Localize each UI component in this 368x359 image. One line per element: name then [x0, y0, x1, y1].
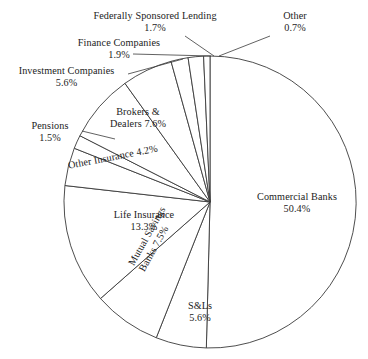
- slice-label-commercial-banks: Commercial Banks 50.4%: [243, 191, 351, 215]
- slice-label-name: Finance Companies: [78, 37, 160, 48]
- slice-label-name: Federally Sponsored Lending: [93, 10, 216, 21]
- slice-label-percent: 5.6%: [176, 312, 224, 324]
- slice-label-percent: 1.7%: [87, 22, 223, 34]
- slice-label-name: Pensions: [31, 120, 68, 131]
- slice-label-percent: 1.5%: [16, 132, 84, 144]
- slice-label-federally-sponsored-lending: Federally Sponsored Lending 1.7%: [87, 10, 223, 34]
- slice-label-finance-companies: Finance Companies 1.9%: [66, 37, 172, 61]
- leader-line-federally-sponsored-lending: [185, 36, 214, 56]
- slice-label-snls: S&Ls 5.6%: [176, 300, 224, 324]
- pie-chart: Federally Sponsored Lending 1.7% Other 0…: [0, 0, 368, 359]
- slice-label-brokers-dealers: Brokers & Dealers 7.6%: [96, 106, 180, 130]
- slice-label-investment-companies: Investment Companies 5.6%: [4, 65, 129, 89]
- slice-label-name: S&Ls: [188, 300, 212, 311]
- slice-label-name: Other: [283, 10, 307, 21]
- leader-line-other: [219, 36, 270, 56]
- slice-label-percent: 1.9%: [66, 49, 172, 61]
- slice-label-other: Other 0.7%: [268, 10, 322, 34]
- slice-label-percent: 50.4%: [243, 203, 351, 215]
- slice-label-name-line2: Dealers 7.6%: [96, 118, 180, 130]
- slice-label-percent: 5.6%: [4, 77, 129, 89]
- slice-label-name: Investment Companies: [19, 65, 115, 76]
- slice-label-name: Commercial Banks: [257, 191, 337, 202]
- slice-label-pensions: Pensions 1.5%: [16, 120, 84, 144]
- slice-label-percent: 0.7%: [268, 22, 322, 34]
- slice-label-name-line1: Brokers &: [116, 106, 160, 117]
